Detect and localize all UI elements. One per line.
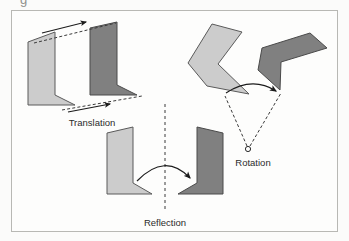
rotation-image-shape xyxy=(258,33,327,90)
translation-label: Translation xyxy=(69,117,116,128)
diagram-canvas: Translation Rotation Reflection xyxy=(0,0,349,241)
reflection-group: Reflection xyxy=(107,104,223,228)
rotation-preimage-shape xyxy=(188,24,249,94)
rotation-label: Rotation xyxy=(235,157,270,168)
reflection-arc-arrow xyxy=(137,166,190,181)
rotation-radius-preimage xyxy=(225,96,247,146)
reflection-label: Reflection xyxy=(144,217,186,228)
transformations-figure: g Translation xyxy=(0,0,349,241)
reflection-image-shape xyxy=(178,127,223,194)
rotation-radius-image xyxy=(250,93,281,146)
reflection-preimage-shape xyxy=(107,127,152,194)
translation-group: Translation xyxy=(28,22,142,128)
translation-image-shape xyxy=(90,22,137,95)
center-of-rotation-marker xyxy=(245,146,250,151)
translation-vector-lower-dashed xyxy=(62,96,142,110)
translation-vector-upper-arrow xyxy=(42,22,86,33)
